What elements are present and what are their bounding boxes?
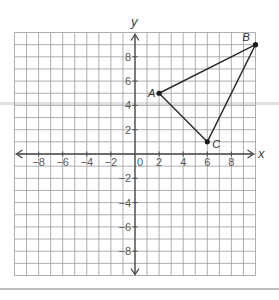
y-tick-label: −4 bbox=[118, 197, 131, 209]
point-b bbox=[253, 42, 258, 47]
y-tick-label: −8 bbox=[118, 245, 131, 257]
x-tick-label: −4 bbox=[81, 156, 94, 168]
point-a bbox=[157, 91, 162, 96]
axes bbox=[17, 35, 254, 275]
x-tick-label: 8 bbox=[228, 156, 234, 168]
x-tick-label: 2 bbox=[156, 156, 162, 168]
x-tick-label: −8 bbox=[32, 156, 45, 168]
coordinate-plane-figure: −8−6−4−224688642−2−4−6−8 ABC x y 0 bbox=[0, 0, 279, 300]
x-tick-label: −6 bbox=[56, 156, 69, 168]
coordinate-plane-svg: −8−6−4−224688642−2−4−6−8 ABC x y 0 bbox=[0, 0, 279, 300]
y-tick-label: −2 bbox=[118, 172, 131, 184]
y-axis-label: y bbox=[130, 14, 139, 29]
point-b-label: B bbox=[243, 31, 250, 43]
scan-artifacts bbox=[0, 102, 279, 290]
y-tick-label: 2 bbox=[125, 124, 131, 136]
x-tick-label: 6 bbox=[204, 156, 210, 168]
x-axis-label: x bbox=[257, 146, 265, 161]
origin-label: 0 bbox=[137, 156, 143, 168]
x-tick-label: −2 bbox=[105, 156, 118, 168]
page-edge-line bbox=[0, 288, 279, 290]
y-tick-label: 6 bbox=[125, 75, 131, 87]
point-c-label: C bbox=[212, 138, 220, 150]
y-tick-label: −6 bbox=[118, 221, 131, 233]
point-c bbox=[205, 139, 210, 144]
x-tick-label: 4 bbox=[180, 156, 186, 168]
point-a-label: A bbox=[147, 87, 155, 99]
y-tick-label: 4 bbox=[125, 99, 131, 111]
scan-band bbox=[0, 102, 279, 105]
y-tick-label: 8 bbox=[125, 51, 131, 63]
